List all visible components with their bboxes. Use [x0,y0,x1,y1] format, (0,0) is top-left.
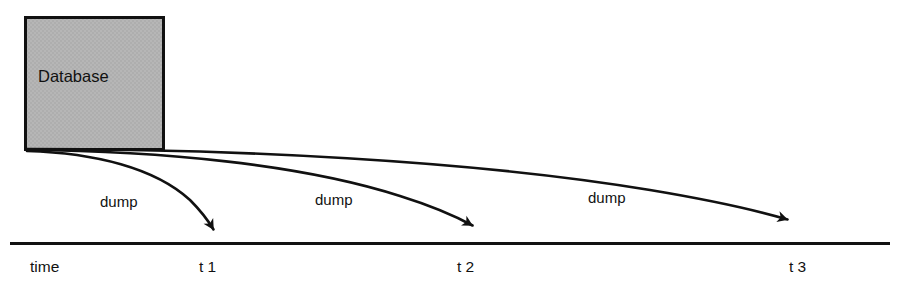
dump-arrow-3-label: dump [588,189,626,206]
dump-arrow-3-path [27,149,788,220]
dump-arrow-1-path [27,151,214,230]
timeline-diagram-svg: Database dump dump dump time t 1 t 2 t 3 [0,0,902,296]
time-axis-tick-t1: t 1 [199,258,216,275]
dump-arrow-1: dump [27,151,214,230]
database-box-label: Database [38,67,109,85]
time-axis: time t 1 t 2 t 3 [10,244,890,276]
time-axis-label: time [30,258,59,275]
dump-arrow-2-label: dump [315,191,353,208]
time-axis-tick-t3: t 3 [789,258,806,275]
dump-arrow-3: dump [27,149,788,220]
diagram-canvas: Database dump dump dump time t 1 t 2 t 3 [0,0,902,296]
dump-arrow-1-label: dump [100,193,138,210]
database-node: Database [26,18,164,150]
time-axis-tick-t2: t 2 [457,258,474,275]
